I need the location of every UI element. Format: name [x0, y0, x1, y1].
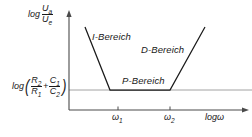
x-tick-label-omega2: ω2 [164, 113, 175, 122]
y-axis-label-log: log [28, 10, 40, 19]
y-axis-label-numerator: Ua [42, 4, 53, 15]
x-axis-arrow-icon [242, 107, 249, 112]
gain-label-resistor-fraction: R2 R1 [31, 76, 42, 96]
x-axis-label: logω [205, 113, 224, 122]
y-axis-label-denominator: Ue [42, 15, 53, 25]
gain-label-plus-operator: + [43, 82, 48, 91]
gain-label-log: log [12, 82, 24, 91]
gain-level-label: log ( R2 R1 + C1 C2 ) [12, 76, 67, 96]
gain-label-c2: C2 [49, 87, 60, 97]
y-axis-label-fraction: Ua Ue [42, 4, 53, 24]
gain-label-r1: R1 [31, 87, 42, 97]
region-label-i-bereich: I-Bereich [92, 32, 131, 42]
bode-plot-figure: log Ua Ue log ( R2 R1 + C1 C2 ) I-Bereic… [0, 0, 252, 137]
gain-label-r2: R2 [31, 76, 42, 87]
x-tick-label-omega1: ω1 [112, 113, 123, 122]
gain-label-capacitor-fraction: C1 C2 [49, 76, 60, 96]
gain-label-open-paren: ( [25, 78, 29, 94]
region-label-d-bereich: D-Bereich [141, 45, 184, 55]
gain-label-c1: C1 [49, 76, 60, 87]
region-label-p-bereich: P-Bereich [122, 76, 165, 86]
gain-label-close-paren: ) [62, 78, 66, 94]
y-axis-label: log Ua Ue [28, 4, 53, 24]
y-axis-arrow-icon [66, 10, 71, 17]
